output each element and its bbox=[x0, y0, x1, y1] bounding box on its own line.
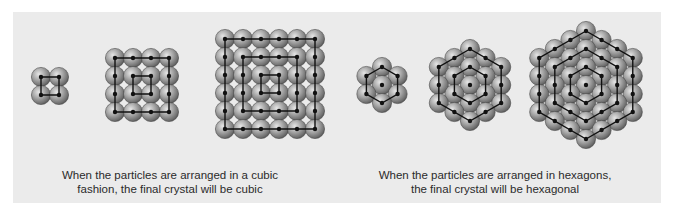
particle-center-dot bbox=[277, 55, 281, 59]
particle-center-dot bbox=[631, 110, 635, 114]
particle-center-dot bbox=[259, 55, 263, 59]
particle-center-dot bbox=[553, 47, 557, 51]
cubic-caption-line1: When the particles are arranged in a cub… bbox=[40, 168, 300, 182]
particle-center-dot bbox=[380, 101, 384, 105]
particle-center-dot bbox=[277, 91, 281, 95]
hexagonal-caption-line2: the final crystal will be hexagonal bbox=[365, 182, 625, 196]
particle-center-dot bbox=[468, 65, 472, 69]
particle-center-dot bbox=[113, 92, 117, 96]
particle-center-dot bbox=[615, 101, 619, 105]
particle-center-dot bbox=[313, 37, 317, 41]
particle-center-dot bbox=[537, 110, 541, 114]
particle-center-dot bbox=[437, 83, 441, 87]
particle-center-dot bbox=[452, 56, 456, 60]
particle-center-dot bbox=[483, 56, 487, 60]
particle-center-dot bbox=[241, 73, 245, 77]
particle-center-dot bbox=[223, 109, 227, 113]
particle-center-dot bbox=[277, 127, 281, 131]
particle-center-dot bbox=[499, 101, 503, 105]
particle-center-dot bbox=[295, 91, 299, 95]
particle-center-dot bbox=[553, 101, 557, 105]
particle-center-dot bbox=[167, 56, 171, 60]
particle-center-dot bbox=[241, 55, 245, 59]
particle-center-dot bbox=[259, 73, 263, 77]
cubic-stage-4x4 bbox=[105, 48, 178, 121]
particle-center-dot bbox=[499, 65, 503, 69]
particle-center-dot bbox=[259, 127, 263, 131]
particle-center-dot bbox=[584, 65, 588, 69]
particle-center-dot bbox=[223, 37, 227, 41]
lattice-outline bbox=[243, 57, 297, 111]
particle-center-dot bbox=[380, 65, 384, 69]
particle-center-dot bbox=[537, 56, 541, 60]
particle-center-dot bbox=[631, 92, 635, 96]
particle-center-dot bbox=[295, 73, 299, 77]
lattice-outline bbox=[115, 58, 169, 112]
particle-center-dot bbox=[259, 91, 263, 95]
particle-center-dot bbox=[568, 74, 572, 78]
hexagonal-stage-ring-2 bbox=[429, 39, 511, 130]
particle-center-dot bbox=[631, 56, 635, 60]
particle-center-dot bbox=[584, 119, 588, 123]
particle-center-dot bbox=[113, 74, 117, 78]
particle-center-dot bbox=[131, 110, 135, 114]
particle-center-dot bbox=[599, 92, 603, 96]
cubic-arrangement-group bbox=[31, 29, 324, 138]
particle-center-dot bbox=[568, 56, 572, 60]
particle-center-dot bbox=[568, 128, 572, 132]
particle-center-dot bbox=[615, 47, 619, 51]
particle-center-dot bbox=[537, 74, 541, 78]
particle-center-dot bbox=[364, 92, 368, 96]
particle-center-dot bbox=[277, 37, 281, 41]
particle-center-dot bbox=[615, 119, 619, 123]
particle-center-dot bbox=[599, 56, 603, 60]
particle-center-dot bbox=[395, 92, 399, 96]
particle-center-dot bbox=[380, 83, 384, 87]
particle-center-dot bbox=[131, 92, 135, 96]
particle-center-dot bbox=[241, 127, 245, 131]
particle-center-dot bbox=[113, 56, 117, 60]
hexagonal-caption-line1: When the particles are arranged in hexag… bbox=[365, 168, 625, 182]
particle-center-dot bbox=[131, 56, 135, 60]
particle-center-dot bbox=[553, 65, 557, 69]
particle-center-dot bbox=[631, 74, 635, 78]
particle-center-dot bbox=[584, 29, 588, 33]
cubic-caption-line2: fashion, the final crystal will be cubic bbox=[40, 182, 300, 196]
particle-center-dot bbox=[599, 128, 603, 132]
hexagonal-caption: When the particles are arranged in hexag… bbox=[365, 168, 625, 196]
particle-center-dot bbox=[295, 37, 299, 41]
hexagonal-stage-ring-3 bbox=[530, 21, 643, 148]
particle-center-dot bbox=[599, 38, 603, 42]
particle-center-dot bbox=[295, 127, 299, 131]
particle-center-dot bbox=[241, 91, 245, 95]
particle-center-dot bbox=[167, 110, 171, 114]
particle-center-dot bbox=[149, 74, 153, 78]
particle-center-dot bbox=[149, 110, 153, 114]
particle-center-dot bbox=[452, 110, 456, 114]
particle-center-dot bbox=[57, 75, 61, 79]
particle-center-dot bbox=[295, 55, 299, 59]
particle-center-dot bbox=[223, 127, 227, 131]
particle-center-dot bbox=[599, 74, 603, 78]
particle-center-dot bbox=[149, 56, 153, 60]
particle-center-dot bbox=[568, 38, 572, 42]
particle-center-dot bbox=[553, 83, 557, 87]
hexagonal-stage-ring-1 bbox=[357, 57, 407, 112]
particle-center-dot bbox=[499, 83, 503, 87]
particle-center-dot bbox=[483, 92, 487, 96]
particle-center-dot bbox=[131, 74, 135, 78]
particle-center-dot bbox=[113, 110, 117, 114]
cubic-stage-6x6 bbox=[215, 29, 324, 138]
particle-center-dot bbox=[39, 75, 43, 79]
particle-center-dot bbox=[468, 119, 472, 123]
particle-center-dot bbox=[313, 55, 317, 59]
particle-center-dot bbox=[395, 74, 399, 78]
particle-center-dot bbox=[568, 92, 572, 96]
particle-center-dot bbox=[241, 109, 245, 113]
particle-center-dot bbox=[553, 119, 557, 123]
particle-center-dot bbox=[223, 55, 227, 59]
particle-center-dot bbox=[468, 101, 472, 105]
particle-center-dot bbox=[452, 74, 456, 78]
particle-center-dot bbox=[615, 65, 619, 69]
cubic-caption: When the particles are arranged in a cub… bbox=[40, 168, 300, 196]
